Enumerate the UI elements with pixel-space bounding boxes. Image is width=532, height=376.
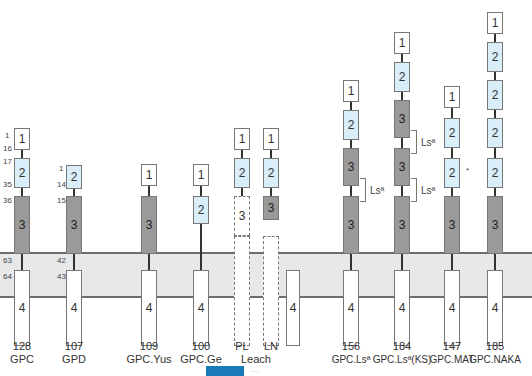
deleted-domain-4 (234, 236, 250, 346)
domain-2: 2 (487, 118, 503, 148)
domain-1: 1 (263, 128, 279, 150)
domain-4: 4 (141, 270, 157, 346)
domain-1: 1 (394, 32, 410, 54)
domain-4: 4 (14, 270, 30, 346)
domain-4: 4 (286, 270, 300, 346)
deleted-domain-4 (263, 236, 279, 346)
domain-2: 2 (263, 158, 279, 188)
domain-1: 1 (487, 12, 503, 34)
domain-3: 3 (66, 196, 82, 254)
domain-1: 1 (193, 164, 209, 186)
domain-3: 3 (14, 196, 30, 254)
domain-1: 1 (343, 80, 359, 102)
deleted-domain-3: 3 (234, 196, 250, 236)
domain-1: 1 (234, 128, 250, 150)
domain-4: 4 (487, 270, 503, 346)
domain-4: 4 (444, 270, 460, 346)
domain-3: 3 (444, 196, 460, 254)
domain-1: 1 (141, 164, 157, 186)
domain-3: 3 (343, 148, 359, 186)
domain-1: 1 (444, 86, 460, 108)
domain-3: 3 (487, 196, 503, 254)
domain-4: 4 (66, 270, 82, 346)
domain-2: 2 (487, 42, 503, 72)
domain-2: 2 (14, 158, 30, 188)
domain-3: 3 (263, 196, 279, 220)
domain-3: 3 (394, 196, 410, 254)
domain-2: 2 (444, 118, 460, 148)
domain-2: 2 (234, 158, 250, 188)
domain-1: 1 (14, 128, 30, 150)
domain-4: 4 (343, 270, 359, 346)
domain-3: 3 (343, 196, 359, 254)
caption-badge (206, 366, 244, 376)
domain-3: 3 (394, 148, 410, 186)
domain-2: 2 (487, 158, 503, 188)
caption-text: … (250, 364, 259, 374)
domain-2: 2 (193, 196, 209, 224)
domain-2: 2 (487, 80, 503, 110)
domain-2: 2 (66, 165, 82, 189)
domain-3: 3 (394, 100, 410, 138)
domain-2: 2 (394, 62, 410, 92)
domain-2: 2 (444, 158, 460, 188)
domain-2: 2 (343, 110, 359, 140)
domain-4: 4 (193, 270, 209, 346)
domain-3: 3 (141, 196, 157, 254)
domain-4: 4 (394, 270, 410, 346)
